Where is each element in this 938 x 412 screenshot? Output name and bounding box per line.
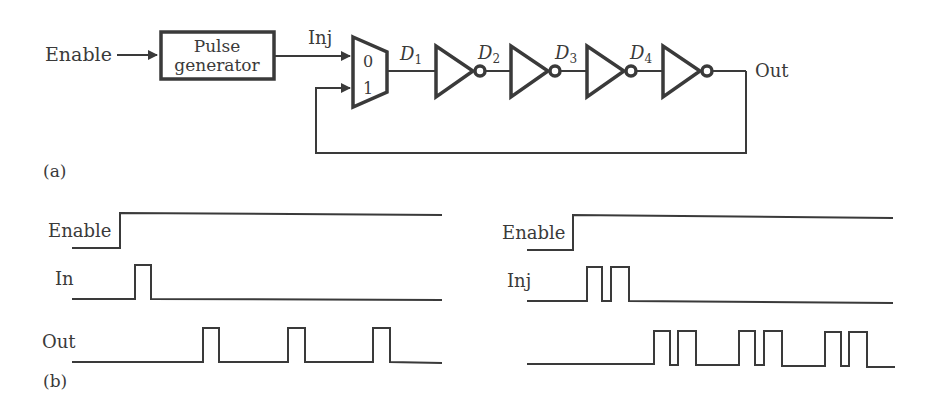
timing-right-enable-label: Enable (502, 222, 565, 243)
circuit-diagram: Enable Pulse generator Inj 0 1 D1 D2 D3 (43, 27, 789, 181)
ring-oscillator-figure: Enable Pulse generator Inj 0 1 D1 D2 D3 (0, 0, 938, 412)
timing-left-enable-wave (72, 213, 442, 248)
timing-left-out-label: Out (42, 331, 76, 352)
timing-right-out-wave (527, 331, 895, 367)
mux-input-1-label: 1 (363, 79, 373, 98)
mux-input-0-label: 0 (363, 52, 373, 71)
node-d1-label: D1 (399, 43, 422, 67)
inverter-2 (511, 46, 560, 97)
subfigure-a-label: (a) (43, 161, 66, 181)
timing-right-inj-wave (527, 267, 893, 303)
pulse-generator-label-line2: generator (174, 55, 260, 75)
timing-left-in-label: In (55, 268, 74, 289)
timing-left-in-wave (72, 265, 442, 300)
node-d3-label: D3 (554, 42, 577, 66)
timing-left-enable-label: Enable (48, 220, 111, 241)
node-d2-label: D2 (477, 42, 500, 66)
inverter-3 (587, 46, 636, 97)
inj-label: Inj (308, 27, 332, 48)
subfigure-b-label: (b) (43, 371, 67, 391)
inverter-4 (663, 46, 712, 97)
node-d4-label: D4 (629, 42, 652, 66)
timing-right-enable-wave (527, 215, 893, 250)
enable-input-label: Enable (45, 43, 112, 65)
timing-diagram-left: Enable In Out (b) (42, 213, 442, 391)
figure-svg: Enable Pulse generator Inj 0 1 D1 D2 D3 (0, 0, 938, 412)
timing-right-inj-label: Inj (507, 270, 531, 291)
timing-left-out-wave (72, 328, 442, 363)
out-label: Out (755, 60, 789, 81)
timing-diagram-right: Enable Inj (502, 215, 895, 367)
pulse-generator-label-line1: Pulse (194, 36, 241, 56)
